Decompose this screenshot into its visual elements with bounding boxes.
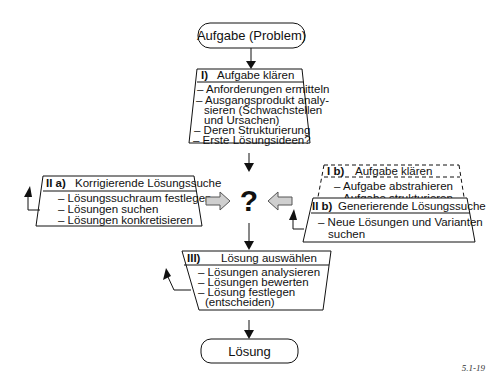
step1-box: I) Aufgabe klären – Anforderungen ermitt… bbox=[189, 69, 329, 146]
step2b-title: Generierende Lösungssuche bbox=[338, 200, 486, 212]
figure-number: 5.1-19 bbox=[462, 363, 486, 373]
step3-number: III) bbox=[187, 252, 201, 264]
step2b-box: II b) Generierende Lösungssuche – Neue L… bbox=[303, 198, 486, 242]
step3-box: III) Lösung auswählen – Lösungen analysi… bbox=[182, 251, 331, 310]
step1-title: Aufgabe klären bbox=[217, 69, 294, 81]
feedback-arrow-step3 bbox=[163, 268, 191, 290]
step1b-number: I b) bbox=[327, 165, 344, 177]
end-terminal: Lösung bbox=[201, 339, 298, 363]
step2a-box: II a) Korrigierende Lösungssuche – Lösun… bbox=[36, 176, 221, 226]
end-label: Lösung bbox=[228, 344, 271, 359]
arrow-question-to-step3 bbox=[244, 223, 254, 250]
decision-question-mark: ? bbox=[240, 184, 258, 217]
step2b-number: II b) bbox=[312, 200, 333, 212]
step1-number: I) bbox=[201, 69, 208, 81]
step3-title: Lösung auswählen bbox=[221, 252, 317, 264]
arrow-step1-to-question bbox=[244, 153, 254, 172]
step2a-title: Korrigierende Lösungssuche bbox=[75, 177, 221, 189]
feedback-arrow-step2a bbox=[24, 186, 40, 210]
arrow-step3-to-end bbox=[244, 320, 254, 339]
step2a-number: II a) bbox=[46, 177, 66, 189]
step1-item: – Erste Lösungsideen? bbox=[193, 134, 311, 146]
arrow-start-to-step1 bbox=[246, 48, 256, 69]
feedback-arrow-step2b bbox=[289, 209, 304, 229]
step1b-item: – Aufgabe abstrahieren bbox=[334, 180, 453, 192]
step1b-title: Aufgabe klären bbox=[355, 165, 432, 177]
flowchart: Aufgabe (Problem) I) Aufgabe klären – An… bbox=[0, 0, 493, 384]
hollow-arrow-left bbox=[268, 192, 292, 210]
step3-item: (entscheiden) bbox=[205, 296, 275, 308]
step2a-item: – Lösungen konkretisieren bbox=[58, 214, 193, 226]
start-label: Aufgabe (Problem) bbox=[197, 28, 306, 43]
start-terminal: Aufgabe (Problem) bbox=[197, 23, 306, 48]
step2b-item: – Neue Lösungen und Varianten bbox=[318, 216, 483, 228]
step2b-item: suchen bbox=[328, 228, 365, 240]
